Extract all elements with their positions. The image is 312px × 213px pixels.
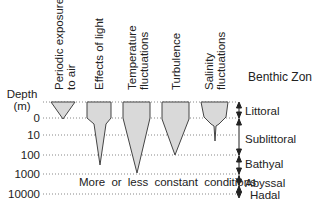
factor-label-periodic-exposure: Periodic exposure to air: [53, 0, 77, 90]
factor-label-turbulence: Turbulence: [170, 33, 182, 90]
zone-bathyal: Bathyal: [245, 158, 283, 170]
depth-label-line2: (m): [0, 100, 44, 112]
depth-tick-0: 0: [0, 112, 40, 124]
periodic-exposure-shape: [51, 102, 75, 119]
depth-label-line1: Depth: [0, 88, 44, 100]
temperature-shape: [123, 102, 150, 173]
depth-tick-10000: 10000: [0, 188, 40, 200]
depth-axis-label: Depth (m): [0, 88, 44, 112]
factor-label-line: Temperature: [126, 25, 138, 90]
factor-label-salinity: Salinity fluctuations: [203, 32, 227, 90]
factor-label-line: Salinity: [203, 32, 215, 90]
factor-label-temperature: Temperature fluctuations: [126, 25, 150, 90]
factor-label-line: Effects of light: [93, 18, 105, 90]
effects-of-light-shape: [87, 102, 111, 165]
factor-label-line: Turbulence: [170, 33, 182, 90]
constant-conditions-note: More or less constant conditions: [79, 176, 256, 188]
depth-tick-1000: 1000: [0, 168, 40, 180]
zone-littoral: Littoral: [245, 105, 280, 117]
diagram-title: Benthic Zone: [248, 70, 312, 84]
turbulence-shape: [162, 102, 189, 155]
zone-sublittoral: Sublittoral: [245, 133, 296, 145]
depth-tick-100: 100: [0, 149, 40, 161]
factor-label-effects-of-light: Effects of light: [93, 18, 105, 90]
factor-label-line: Periodic exposure: [53, 0, 65, 90]
factor-label-line: to air: [65, 0, 77, 90]
zone-hadal: Hadal: [250, 189, 280, 201]
factor-label-line: fluctuations: [138, 25, 150, 90]
depth-tick-10: 10: [0, 129, 40, 141]
factor-label-line: fluctuations: [215, 32, 227, 90]
